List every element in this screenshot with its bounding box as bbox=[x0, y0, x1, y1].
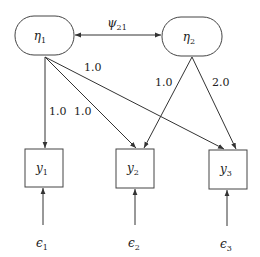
observed-node-y3: y3 bbox=[209, 150, 247, 189]
svg-text:1.0: 1.0 bbox=[155, 76, 173, 89]
latent-node-eta2: η2 bbox=[162, 17, 222, 56]
loading-eta2-y2: 1.0 bbox=[144, 57, 192, 148]
error-arrow-e1: ϵ1 bbox=[36, 188, 48, 252]
path-diagram: η1 η2 ψ21 1.0 1.0 1.0 1.0 2.0 y1 y2 bbox=[0, 0, 260, 257]
loading-eta1-y1: 1.0 bbox=[45, 57, 67, 148]
error-arrow-e3: ϵ3 bbox=[220, 190, 232, 253]
svg-text:1.0: 1.0 bbox=[84, 61, 102, 74]
observed-node-y2: y2 bbox=[116, 149, 154, 188]
svg-text:ϵ3: ϵ3 bbox=[220, 237, 232, 253]
loading-eta1-y3: 1.0 bbox=[45, 57, 224, 149]
svg-text:2.0: 2.0 bbox=[212, 76, 230, 89]
loading-eta2-y3: 2.0 bbox=[192, 57, 236, 149]
covariance-arrow: ψ21 bbox=[75, 16, 161, 35]
svg-text:ϵ1: ϵ1 bbox=[36, 236, 48, 252]
latent-node-eta1: η1 bbox=[15, 16, 74, 55]
svg-text:ψ21: ψ21 bbox=[107, 16, 127, 32]
svg-text:1.0: 1.0 bbox=[49, 105, 67, 118]
error-arrow-e2: ϵ2 bbox=[128, 189, 140, 252]
svg-text:ϵ2: ϵ2 bbox=[128, 236, 140, 252]
svg-text:1.0: 1.0 bbox=[74, 105, 92, 118]
observed-node-y1: y1 bbox=[25, 149, 63, 187]
